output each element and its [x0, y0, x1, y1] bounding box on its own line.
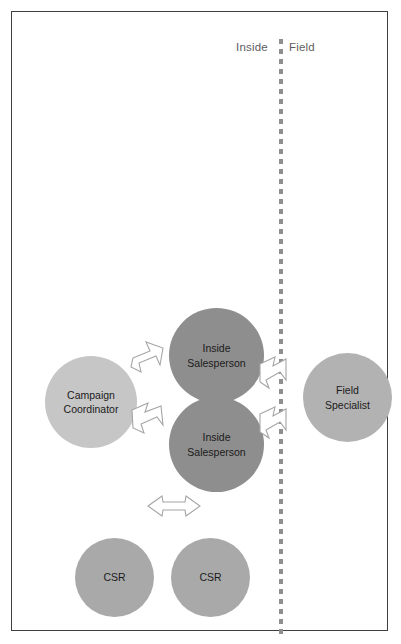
block-arrow-double-horizontal-icon	[146, 493, 202, 519]
node-inside-salesperson-1-label: Inside Salesperson	[181, 341, 251, 370]
node-inside-salesperson-1[interactable]: Inside Salesperson	[169, 308, 264, 403]
node-csr-2-label: CSR	[193, 570, 227, 584]
block-arrow-southeast-icon	[258, 354, 292, 396]
node-campaign-coordinator[interactable]: Campaign Coordinator	[45, 356, 137, 448]
block-arrow-southeast-icon	[258, 404, 292, 446]
node-inside-salesperson-2-label: Inside Salesperson	[181, 430, 251, 459]
node-field-specialist[interactable]: Field Specialist	[303, 353, 392, 442]
node-field-specialist-label: Field Specialist	[319, 383, 376, 412]
node-inside-salesperson-2[interactable]: Inside Salesperson	[169, 397, 264, 492]
node-csr-2[interactable]: CSR	[171, 538, 250, 617]
zone-label-field: Field	[289, 41, 315, 53]
diagram-canvas: Inside Field Campaign Coordinator Inside…	[0, 0, 401, 644]
inside-field-divider-line	[279, 39, 283, 636]
zone-label-inside: Inside	[236, 41, 268, 53]
node-csr-1-label: CSR	[97, 570, 131, 584]
node-csr-1[interactable]: CSR	[75, 538, 154, 617]
block-arrow-southeast-icon	[130, 398, 168, 442]
block-arrow-northeast-icon	[130, 340, 168, 384]
node-campaign-coordinator-label: Campaign Coordinator	[58, 388, 125, 417]
diagram-frame: Inside Field Campaign Coordinator Inside…	[11, 11, 388, 631]
